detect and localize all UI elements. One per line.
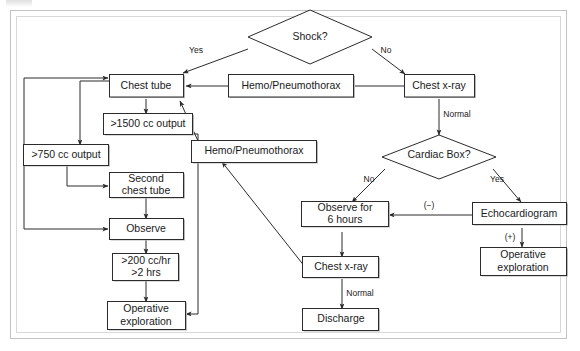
output-200-label-line1: >200 cc/hr bbox=[121, 254, 171, 266]
figure-outer-frame bbox=[11, 11, 567, 339]
observe-6h-label-line2: 6 hours bbox=[327, 213, 362, 225]
operative-left-label-line1: Operative bbox=[123, 302, 169, 314]
node-output-1500[interactable]: >1500 cc output bbox=[104, 114, 195, 136]
node-hemo-pneumothorax-mid[interactable]: Hemo/Pneumothorax bbox=[192, 141, 319, 164]
edge-label-echo-positive: (+) bbox=[505, 232, 516, 242]
node-echocardiogram[interactable]: Echocardiogram bbox=[473, 203, 569, 226]
output-200-label-line2: >2 hrs bbox=[131, 266, 160, 278]
hemo-mid-label: Hemo/Pneumothorax bbox=[204, 144, 304, 156]
chest-xray-top-label: Chest x-ray bbox=[412, 79, 466, 91]
discharge-label: Discharge bbox=[317, 312, 364, 324]
second-chest-tube-label-line2: chest tube bbox=[122, 184, 171, 196]
node-shock[interactable]: Shock? bbox=[248, 10, 372, 64]
node-hemo-pneumothorax-top[interactable]: Hemo/Pneumothorax bbox=[229, 75, 356, 99]
flowchart-figure: Shock? Hemo/Pneumothorax Chest tube Ches… bbox=[0, 0, 580, 351]
edge-label-xray-bottom-normal: Normal bbox=[346, 288, 374, 298]
cardiac-box-label: Cardiac Box? bbox=[407, 148, 470, 160]
node-chest-xray-top[interactable]: Chest x-ray bbox=[405, 75, 477, 99]
chest-tube-label: Chest tube bbox=[121, 79, 172, 91]
operative-left-label-line2: exploration bbox=[120, 315, 172, 327]
output-1500-label: >1500 cc output bbox=[110, 117, 185, 129]
edge-label-cardiac-yes: Yes bbox=[490, 174, 504, 184]
node-second-chest-tube[interactable]: Second chest tube bbox=[110, 172, 186, 198]
node-discharge[interactable]: Discharge bbox=[303, 309, 381, 332]
chest-xray-bottom-label: Chest x-ray bbox=[314, 260, 368, 272]
operative-right-label-line1: Operative bbox=[500, 248, 546, 260]
node-chest-xray-bottom[interactable]: Chest x-ray bbox=[303, 257, 381, 279]
hemo-top-label: Hemo/Pneumothorax bbox=[241, 79, 341, 91]
node-cardiac-box[interactable]: Cardiac Box? bbox=[382, 135, 496, 179]
node-observe[interactable]: Observe bbox=[110, 219, 186, 241]
edge-label-cardiac-no: No bbox=[364, 174, 375, 184]
edge-label-echo-negative: (−) bbox=[424, 200, 435, 210]
second-chest-tube-label-line1: Second bbox=[128, 172, 164, 184]
operative-right-label-line2: exploration bbox=[497, 261, 549, 273]
node-observe-6-hours[interactable]: Observe for 6 hours bbox=[302, 201, 391, 227]
echocardiogram-label: Echocardiogram bbox=[481, 207, 558, 219]
edge-xray-bottom-to-hemo-mid bbox=[222, 162, 313, 277]
observe-6h-label-line1: Observe for bbox=[318, 201, 373, 213]
node-operative-exploration-right[interactable]: Operative exploration bbox=[481, 248, 569, 277]
shock-label: Shock? bbox=[292, 30, 327, 42]
flowchart-canvas: Shock? Hemo/Pneumothorax Chest tube Ches… bbox=[0, 0, 580, 351]
node-chest-tube[interactable]: Chest tube bbox=[110, 75, 186, 99]
node-operative-exploration-left[interactable]: Operative exploration bbox=[108, 302, 188, 331]
edge-750-to-second-chest-tube bbox=[67, 165, 108, 186]
output-750-label: >750 cc output bbox=[31, 148, 100, 160]
figure-inner-frame bbox=[17, 17, 561, 333]
edge-label-xray-normal: Normal bbox=[443, 109, 471, 119]
edge-label-shock-yes: Yes bbox=[189, 45, 203, 55]
node-output-750[interactable]: >750 cc output bbox=[24, 145, 111, 167]
observe-label: Observe bbox=[126, 222, 166, 234]
edge-label-shock-no: No bbox=[381, 45, 392, 55]
node-output-200[interactable]: >200 cc/hr >2 hrs bbox=[113, 254, 181, 282]
